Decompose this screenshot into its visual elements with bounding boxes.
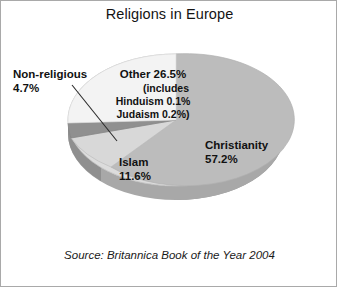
slice-label-nonreligious-name: Non-religious — [13, 68, 87, 80]
slice-label-christianity-value: 57.2% — [205, 153, 268, 167]
slice-label-christianity: Christianity 57.2% — [205, 139, 268, 166]
source-note: Source: Britannica Book of the Year 2004 — [1, 249, 337, 261]
slice-label-other-judaism: Judaism 0.2%) — [107, 108, 199, 121]
slice-label-other-name: Other 26.5% — [120, 68, 186, 80]
slice-label-christianity-name: Christianity — [205, 139, 268, 151]
slice-label-other-hinduism: Hinduism 0.1% — [107, 95, 199, 108]
slice-label-other: Other 26.5% (includes Hinduism 0.1% Juda… — [107, 68, 199, 121]
slice-label-other-includes: (includes — [107, 82, 199, 95]
chart-figure: Religions in Europe Non-re — [0, 0, 337, 287]
slice-label-islam-name: Islam — [119, 156, 148, 168]
slice-label-islam-value: 11.6% — [119, 170, 151, 184]
slice-label-islam: Islam 11.6% — [119, 156, 151, 183]
slice-label-nonreligious-value: 4.7% — [13, 82, 87, 96]
slice-label-nonreligious: Non-religious 4.7% — [13, 68, 87, 95]
pie-chart — [1, 1, 337, 287]
